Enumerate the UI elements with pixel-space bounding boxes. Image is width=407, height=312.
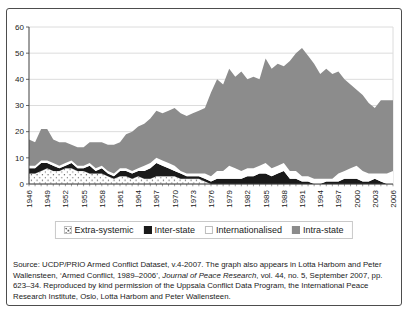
armed-conflicts-figure: 0102030405060194619491952195519581961196…	[0, 0, 407, 312]
x-axis-label: 1964	[134, 189, 143, 207]
intra-state-swatch-icon	[292, 226, 300, 234]
legend-label-extra-systemic: Extra-systemic	[74, 225, 133, 235]
x-axis-label: 1997	[334, 189, 343, 207]
x-axis-label: 1952	[61, 189, 70, 207]
inter-state-swatch-icon	[143, 226, 151, 234]
legend-item-internationalised: Internationalised	[205, 225, 282, 235]
x-axis-label: 1976	[207, 189, 216, 207]
x-axis-label: 1949	[43, 189, 52, 207]
x-axis-label: 1994	[316, 189, 325, 207]
legend-item-extra-systemic: Extra-systemic	[63, 225, 133, 235]
x-axis-label: 1961	[116, 189, 125, 207]
x-axis-label: 1991	[298, 189, 307, 207]
y-axis-label: 40	[15, 75, 24, 84]
conflict-area-chart: 0102030405060194619491952195519581961196…	[0, 0, 407, 240]
legend-item-intra-state: Intra-state	[292, 225, 344, 235]
x-axis-label: 1967	[152, 189, 161, 207]
y-axis-label: 50	[15, 49, 24, 58]
y-axis-label: 30	[15, 101, 24, 110]
x-axis-label: 1985	[262, 189, 271, 207]
legend-label-intra-state: Intra-state	[303, 225, 344, 235]
extra-systemic-swatch-icon	[63, 226, 71, 234]
x-axis-label: 1970	[171, 189, 180, 207]
x-axis-label: 1982	[243, 189, 252, 207]
legend-label-inter-state: Inter-state	[154, 225, 195, 235]
x-axis-label: 1973	[189, 189, 198, 207]
x-axis-label: 1988	[280, 189, 289, 207]
y-axis-label: 0	[20, 180, 25, 189]
x-axis-label: 2000	[353, 189, 362, 207]
source-note: Source: UCDP/PRIO Armed Conflict Dataset…	[13, 260, 394, 303]
y-axis-label: 60	[15, 23, 24, 32]
x-axis-label: 1958	[98, 189, 107, 207]
internationalised-swatch-icon	[205, 226, 213, 234]
y-axis-label: 20	[15, 127, 24, 136]
area-intra-state	[29, 48, 393, 179]
x-axis-label: 2006	[389, 189, 398, 207]
chart-legend: Extra-systemic Inter-state International…	[54, 221, 352, 239]
x-axis-label: 2003	[371, 189, 380, 207]
legend-item-inter-state: Inter-state	[143, 225, 195, 235]
x-axis-label: 1979	[225, 189, 234, 207]
x-axis-label: 1946	[25, 189, 34, 207]
legend-label-internationalised: Internationalised	[216, 225, 282, 235]
x-axis-label: 1955	[80, 189, 89, 207]
y-axis-label: 10	[15, 154, 24, 163]
source-journal-title: Journal of Peace Research	[162, 271, 256, 280]
